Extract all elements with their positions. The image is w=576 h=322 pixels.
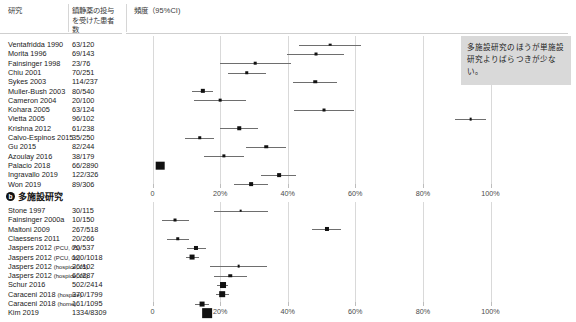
axis-label-100%: 100% bbox=[481, 189, 499, 198]
study-patient-count: 96/102 bbox=[72, 114, 94, 123]
study-patient-count: 267/518 bbox=[72, 225, 98, 234]
study-patient-count: 20/266 bbox=[72, 234, 94, 243]
study-patient-count: 89/306 bbox=[72, 180, 94, 189]
table-row: Gu 201582/244 bbox=[0, 142, 576, 151]
study-name: Maltoni 2009 bbox=[8, 225, 50, 234]
table-row: Azoulay 201638/179 bbox=[0, 152, 576, 161]
table-row: Calvo-Espinos 201535/250 bbox=[0, 133, 576, 142]
table-row: Fainsinger 2000a10/150 bbox=[0, 215, 576, 224]
table-row: Muller-Bush 200380/540 bbox=[0, 87, 576, 96]
study-name: Ventafridda 1990 bbox=[8, 40, 63, 49]
study-name: Sykes 2003 bbox=[8, 77, 46, 86]
study-name: Gu 2015 bbox=[8, 142, 36, 151]
table-row: Ingravallo 2019122/326 bbox=[0, 170, 576, 179]
study-patient-count: 80/540 bbox=[72, 87, 94, 96]
study-patient-count: 370/1799 bbox=[72, 290, 102, 299]
study-name: Fainsinger 2000a bbox=[8, 215, 64, 224]
study-name: Krishna 2012 bbox=[8, 124, 51, 133]
study-patient-count: 122/326 bbox=[72, 170, 98, 179]
study-name: Kohara 2005 bbox=[8, 105, 50, 114]
header-separator-1 bbox=[68, 4, 69, 32]
column-header-study: 研究 bbox=[8, 6, 22, 16]
column-header-patients: 鎮静薬の投与を受けた患者数 bbox=[72, 6, 120, 35]
study-patient-count: 66/287 bbox=[72, 271, 94, 280]
study-patient-count: 69/143 bbox=[72, 49, 94, 58]
study-patient-count: 1334/8309 bbox=[72, 308, 107, 317]
study-name: Won 2019 bbox=[8, 180, 41, 189]
panel-b-label: 多施設研究 bbox=[18, 192, 63, 202]
table-row: Jaspers 2012 (hospice, 06)66/287 bbox=[0, 271, 576, 280]
study-name: Chiu 2001 bbox=[8, 68, 41, 77]
forest-plot-figure: 研究 鎮静薬の投与を受けた患者数 頻度（95%CI) 020%40%60%80%… bbox=[0, 0, 576, 322]
study-patient-count: 70/251 bbox=[72, 68, 94, 77]
study-patient-count: 63/120 bbox=[72, 40, 94, 49]
table-row: Jaspers 2012 (PCU, 05)70/537 bbox=[0, 243, 576, 252]
table-row: Stone 199730/115 bbox=[0, 206, 576, 215]
header-separator-2 bbox=[126, 4, 127, 32]
study-patient-count: 120/1018 bbox=[72, 253, 102, 262]
table-row: Schur 2016502/2414 bbox=[0, 280, 576, 289]
study-patient-count: 10/150 bbox=[72, 215, 94, 224]
table-row: Vietta 200596/102 bbox=[0, 114, 576, 123]
study-name: Fainsinger 1998 bbox=[8, 59, 60, 68]
table-row: Caraceni 2018 (home)161/1095 bbox=[0, 299, 576, 308]
table-row: Claessens 201120/266 bbox=[0, 234, 576, 243]
study-name: Kim 2019 bbox=[8, 308, 39, 317]
table-row: Won 201989/306 bbox=[0, 180, 576, 189]
study-name: Cameron 2004 bbox=[8, 96, 56, 105]
study-name: Claessens 2011 bbox=[8, 234, 60, 243]
axis-label-80%: 80% bbox=[416, 189, 430, 198]
study-patient-count: 66/2890 bbox=[72, 161, 98, 170]
table-row: Maltoni 2009267/518 bbox=[0, 225, 576, 234]
panel-b-marker: b bbox=[6, 192, 15, 201]
axis-label-60%: 60% bbox=[348, 189, 362, 198]
study-name: Morita 1996 bbox=[8, 49, 47, 58]
table-row: Krishna 201261/238 bbox=[0, 124, 576, 133]
study-patient-count: 35/250 bbox=[72, 133, 94, 142]
study-name: Vietta 2005 bbox=[8, 114, 45, 123]
table-row: Caraceni 2018 (hospice)370/1799 bbox=[0, 290, 576, 299]
study-patient-count: 82/244 bbox=[72, 142, 94, 151]
study-patient-count: 61/238 bbox=[72, 124, 94, 133]
table-row: Palacio 201866/2890 bbox=[0, 161, 576, 170]
study-name: Azoulay 2016 bbox=[8, 152, 52, 161]
study-patient-count: 20/100 bbox=[72, 96, 94, 105]
study-name: Muller-Bush 2003 bbox=[8, 87, 65, 96]
table-row: Cameron 200420/100 bbox=[0, 96, 576, 105]
table-row: Jaspers 2012 (PCU, 06)120/1018 bbox=[0, 253, 576, 262]
panel-multi-center: b多施設研究 020%40%60%80%100% Stone 199730/11… bbox=[0, 202, 576, 320]
header-rule-left bbox=[0, 33, 122, 34]
study-patient-count: 114/237 bbox=[72, 77, 98, 86]
study-name: Schur 2016 bbox=[8, 280, 45, 289]
study-patient-count: 38/179 bbox=[72, 152, 94, 161]
axis-label-0: 0 bbox=[151, 189, 155, 198]
study-patient-count: 502/2414 bbox=[72, 280, 102, 289]
study-name: Ingravallo 2019 bbox=[8, 170, 58, 179]
header-rule-right bbox=[126, 33, 568, 34]
axis-label-40%: 40% bbox=[280, 189, 294, 198]
study-name: Stone 1997 bbox=[8, 206, 45, 215]
table-row: Kim 20191334/8309 bbox=[0, 308, 576, 317]
study-patient-count: 23/76 bbox=[72, 59, 90, 68]
column-header-frequency: 頻度（95%CI) bbox=[134, 6, 181, 16]
study-patient-count: 70/537 bbox=[72, 243, 94, 252]
study-patient-count: 30/115 bbox=[72, 206, 94, 215]
table-row: Jaspers 2012 (hospice, 05)26/102 bbox=[0, 262, 576, 271]
table-row: Kohara 200563/124 bbox=[0, 105, 576, 114]
study-patient-count: 161/1095 bbox=[72, 299, 102, 308]
study-patient-count: 26/102 bbox=[72, 262, 94, 271]
study-name: Calvo-Espinos 2015 bbox=[8, 133, 73, 142]
annotation-callout: 多施設研究のほうが単施設研究よりばらつきが少ない。 bbox=[461, 36, 571, 85]
axis-label-20%: 20% bbox=[213, 189, 227, 198]
study-name: Palacio 2018 bbox=[8, 161, 50, 170]
study-patient-count: 63/124 bbox=[72, 105, 94, 114]
